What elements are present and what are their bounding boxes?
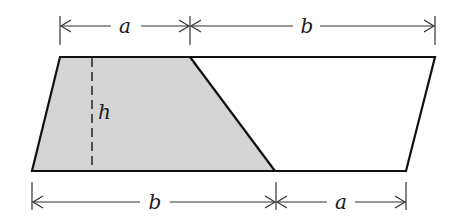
height-label: h: [98, 100, 111, 124]
top-a-label: a: [119, 14, 131, 38]
parallelogram-diagram: h a b b a: [0, 0, 455, 222]
top-b-label: b: [301, 14, 314, 38]
bottom-b-label: b: [149, 190, 162, 214]
top-dimension: [60, 16, 435, 45]
bottom-dimension: [32, 182, 406, 210]
bottom-a-label: a: [335, 190, 347, 214]
